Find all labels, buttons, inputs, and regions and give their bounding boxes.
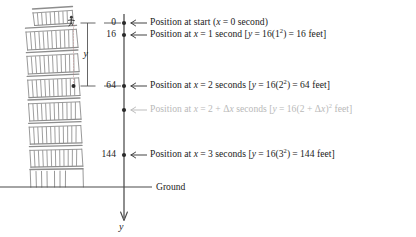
- annotation-t2dx: Position at x=2 + Δx seconds [y=16(2 + Δ…: [150, 104, 352, 114]
- axis-tick-dot: [122, 21, 126, 25]
- ground-label: Ground: [156, 182, 185, 192]
- annotation-t2: Position at x=2 seconds [y=16(22)=64 fee…: [150, 80, 330, 90]
- figure-canvas: 01664144 Position at start (x=0 second)P…: [0, 0, 416, 237]
- callout-arrow-icon: [131, 32, 147, 38]
- callout-arrow-icon: [131, 107, 147, 113]
- callout-arrow-icon: [131, 20, 147, 26]
- callout-arrow-icon: [131, 83, 147, 89]
- axis-tick-label: 64: [84, 81, 116, 91]
- callout-arrow-icon: [131, 152, 147, 158]
- axis-label-y: y: [119, 222, 123, 232]
- axis-tick-dot: [122, 153, 126, 157]
- annotation-start: Position at start (x=0 second): [150, 17, 268, 27]
- axis-tick-dot: [122, 108, 126, 112]
- axis-tick-dot: [122, 84, 126, 88]
- annotation-t3: Position at x=3 seconds [y=16(32)=144 fe…: [150, 149, 335, 159]
- annotation-t1: Position at x=1 second [y=16(12)=16 feet…: [150, 29, 326, 39]
- fall-path-end-dot: [72, 84, 76, 88]
- distance-brace-label: y: [84, 49, 88, 59]
- axis-tick-label: 144: [84, 150, 116, 160]
- axis-tick-label: 16: [84, 30, 116, 40]
- axis-tick-dot: [122, 33, 126, 37]
- axis-tick-label: 0: [84, 18, 116, 28]
